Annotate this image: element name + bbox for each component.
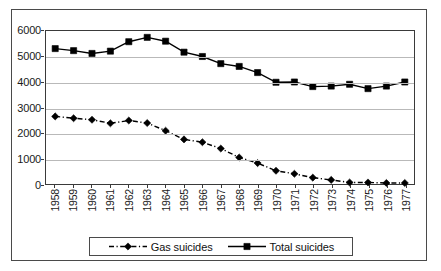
y-tick-label: 2000	[17, 127, 41, 139]
x-tick-label: 1960	[86, 189, 98, 212]
x-tick-label: 1965	[178, 189, 190, 212]
y-tick-label: 6000	[17, 24, 41, 36]
y-tick-mark	[41, 159, 44, 160]
legend-label: Total suicides	[270, 241, 335, 253]
data-point-marker	[236, 63, 242, 69]
x-tick-mark	[369, 185, 370, 188]
x-tick-label: 1975	[363, 189, 375, 212]
data-point-marker	[310, 84, 316, 90]
x-tick-mark	[295, 185, 296, 188]
y-tick-label: 5000	[17, 50, 41, 62]
x-tick-mark	[202, 185, 203, 188]
data-point-marker	[255, 70, 261, 76]
x-axis: 1958195919601961196219631964196519661967…	[45, 187, 415, 235]
y-tick-mark	[41, 30, 44, 31]
x-tick-mark	[258, 185, 259, 188]
x-tick-label: 1974	[345, 189, 357, 212]
x-tick-mark	[165, 185, 166, 188]
x-tick-label: 1968	[234, 189, 246, 212]
data-point-marker	[272, 167, 279, 174]
data-point-marker	[107, 120, 114, 127]
data-point-marker	[243, 243, 249, 249]
x-tick-label: 1964	[160, 189, 172, 212]
chart-legend: Gas suicidesTotal suicides	[89, 237, 353, 256]
data-point-marker	[181, 49, 187, 55]
x-tick-label: 1966	[197, 189, 209, 212]
x-tick-label: 1971	[289, 189, 301, 212]
legend-square-marker-icon	[227, 241, 267, 252]
x-tick-label: 1962	[123, 189, 135, 212]
data-point-marker	[124, 243, 131, 250]
x-tick-label: 1969	[252, 189, 264, 212]
x-tick-mark	[406, 185, 407, 188]
y-tick-mark	[41, 56, 44, 57]
y-tick-label: 4000	[17, 76, 41, 88]
series-gas-suicides	[52, 113, 409, 187]
x-tick-mark	[147, 185, 148, 188]
data-point-marker	[52, 113, 59, 120]
x-tick-mark	[276, 185, 277, 188]
x-tick-mark	[221, 185, 222, 188]
x-tick-mark	[332, 185, 333, 188]
data-point-marker	[199, 139, 206, 146]
x-tick-label: 1959	[67, 189, 79, 212]
x-tick-label: 1963	[141, 189, 153, 212]
data-point-marker	[89, 50, 95, 56]
legend-item-total-suicides[interactable]: Total suicides	[227, 241, 335, 253]
data-point-marker	[162, 127, 169, 134]
y-tick-mark	[41, 133, 44, 134]
x-tick-mark	[128, 185, 129, 188]
data-point-marker	[125, 117, 132, 124]
gridline	[46, 57, 414, 58]
y-tick-mark	[41, 185, 44, 186]
legend-label: Gas suicides	[151, 241, 213, 253]
data-point-marker	[328, 83, 334, 89]
data-point-marker	[328, 176, 335, 183]
legend-item-gas-suicides[interactable]: Gas suicides	[108, 241, 213, 253]
data-point-marker	[309, 174, 316, 181]
data-point-marker	[291, 170, 298, 177]
x-tick-mark	[184, 185, 185, 188]
x-tick-label: 1973	[326, 189, 338, 212]
x-tick-label: 1976	[382, 189, 394, 212]
x-tick-mark	[350, 185, 351, 188]
x-tick-mark	[54, 185, 55, 188]
x-tick-label: 1972	[308, 189, 320, 212]
gridline	[46, 83, 414, 84]
gridline	[46, 134, 414, 135]
data-point-marker	[88, 116, 95, 123]
x-tick-label: 1958	[49, 189, 61, 212]
data-point-marker	[71, 48, 77, 54]
series-line	[55, 116, 405, 183]
data-point-marker	[70, 115, 77, 122]
x-tick-mark	[91, 185, 92, 188]
data-point-marker	[365, 86, 371, 92]
plot-area	[45, 30, 415, 185]
data-point-marker	[144, 120, 151, 127]
data-point-marker	[383, 83, 389, 89]
x-tick-mark	[313, 185, 314, 188]
y-tick-mark	[41, 108, 44, 109]
gridline	[46, 160, 414, 161]
x-tick-mark	[387, 185, 388, 188]
x-tick-label: 1970	[271, 189, 283, 212]
y-axis: 0100020003000400050006000	[12, 30, 41, 185]
x-tick-mark	[73, 185, 74, 188]
data-point-marker	[217, 145, 224, 152]
x-tick-label: 1961	[104, 189, 116, 212]
chart-figure: 0100020003000400050006000 19581959196019…	[11, 9, 427, 261]
x-tick-label: 1977	[400, 189, 412, 212]
y-tick-label: 3000	[17, 102, 41, 114]
data-point-marker	[218, 61, 224, 67]
x-tick-label: 1967	[215, 189, 227, 212]
data-point-marker	[107, 48, 113, 54]
x-tick-mark	[110, 185, 111, 188]
data-point-marker	[52, 46, 58, 52]
data-point-marker	[163, 38, 169, 44]
data-point-marker	[126, 39, 132, 45]
data-point-marker	[144, 34, 150, 40]
y-tick-mark	[41, 82, 44, 83]
data-point-marker	[180, 136, 187, 143]
gridline	[46, 109, 414, 110]
x-tick-mark	[239, 185, 240, 188]
